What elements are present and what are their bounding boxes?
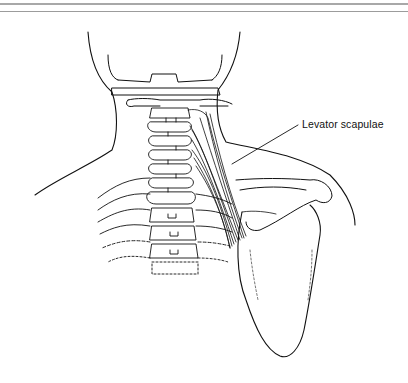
scapula bbox=[238, 205, 320, 357]
label-levator-scapulae: Levator scapulae bbox=[302, 118, 384, 130]
clavicle bbox=[236, 179, 332, 231]
levator-scapulae-muscle bbox=[188, 109, 246, 248]
label-leader-line bbox=[232, 125, 298, 164]
vertebral-column bbox=[147, 108, 198, 274]
figure-page: Levator scapulae bbox=[0, 0, 408, 383]
skull-base bbox=[108, 55, 232, 107]
ribs-left bbox=[98, 178, 150, 262]
anatomy-illustration bbox=[0, 0, 408, 383]
